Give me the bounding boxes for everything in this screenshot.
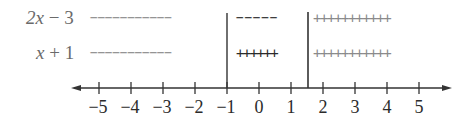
tick-label: 2 (319, 97, 328, 118)
tick-label: 3 (351, 97, 360, 118)
tick-label: 4 (383, 97, 392, 118)
right-arrow-icon (442, 85, 452, 91)
tick-label: 1 (287, 97, 296, 118)
left-arrow-icon (71, 85, 81, 91)
tick-label: −1 (216, 97, 235, 118)
tick-label: 0 (255, 97, 264, 118)
tick-label: −3 (152, 97, 171, 118)
tick-label: −5 (88, 97, 107, 118)
tick-label: −2 (184, 97, 203, 118)
tick-label: −4 (120, 97, 139, 118)
tick-label: 5 (415, 97, 424, 118)
